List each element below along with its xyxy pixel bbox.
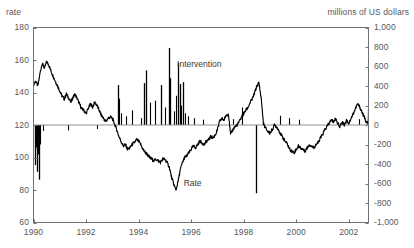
y-axis-right-tick-label: 400 [374,81,412,91]
exchange-rate-intervention-chart: rate millions of US dollars 180160140120… [0,0,414,248]
y-axis-right-tick-label: 1,000 [374,22,412,32]
x-axis-tick-label: 2000 [280,227,312,237]
y-axis-left-tick-label: 100 [2,152,29,162]
y-axis-right-tick-label: -600 [374,178,412,188]
y-axis-left-tick-label: 80 [2,185,29,195]
y-axis-right-tick-label: 600 [374,61,412,71]
chart-annotation-intervention: Intervention [177,59,221,69]
y-axis-left-tick-label: 180 [2,22,29,32]
x-axis-tick-label: 1992 [70,227,102,237]
y-axis-right-tick-label: 800 [374,42,412,52]
intervention-bars-layer [36,48,360,193]
y-axis-right-tick-label: -800 [374,198,412,208]
rate-line-layer [34,61,369,190]
y-axis-right-tick-label: 200 [374,100,412,110]
axis-ticks-layer [34,29,369,224]
x-axis-tick-label: 1998 [228,227,260,237]
plot-canvas [0,0,414,248]
y-axis-right-tick-label: -200 [374,139,412,149]
y-axis-right-tick-label: 0 [374,120,412,130]
right-axis-caption: millions of US dollars [327,7,409,17]
rate-line [34,61,369,190]
x-axis-tick-label: 1996 [175,227,207,237]
x-axis-tick-label: 1990 [18,227,50,237]
left-axis-caption: rate [6,7,21,17]
y-axis-left-tick-label: 140 [2,87,29,97]
x-axis-tick-label: 1994 [123,227,155,237]
x-axis-tick-label: 2002 [333,227,365,237]
y-axis-left-tick-label: 60 [2,217,29,227]
chart-annotation-rate: Rate [184,178,202,188]
y-axis-left-tick-label: 120 [2,120,29,130]
y-axis-left-tick-label: 160 [2,55,29,65]
y-axis-right-tick-label: -1,000 [374,217,412,227]
y-axis-right-tick-label: -400 [374,159,412,169]
